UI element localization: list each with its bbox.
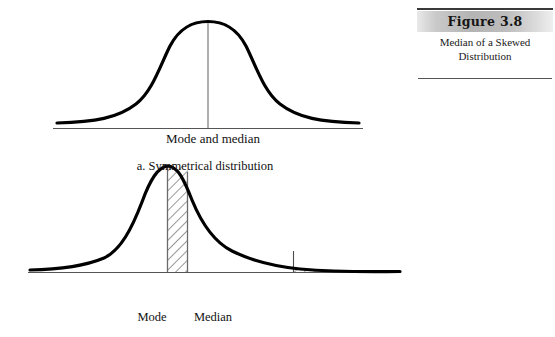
figure-caption-text: Median of a Skewed Distribution [417,36,553,63]
figure-rule-bottom [418,78,552,79]
symmetrical-distribution-plot [0,0,400,150]
figure-caption-line-1: Median of a Skewed [417,36,553,50]
figure-caption-box: Figure 3.8 Median of a Skewed Distributi… [417,6,553,82]
panel-b-upper-tail-region [293,230,401,272]
panel-a-center-label: Mode and median [108,131,318,147]
figure-number-banner: Figure 3.8 [417,11,553,32]
panel-b-median-label: Median [183,310,243,325]
figure-caption-line-2: Distribution [417,50,553,64]
figure-number-label: Figure 3.8 [447,14,522,29]
panel-b-curve [30,166,400,272]
panel-a-subcaption: a. Symmetrical distribution [90,159,320,174]
figure-page: Figure 3.8 Median of a Skewed Distributi… [0,0,555,337]
panel-b-mode-label: Mode [128,310,176,325]
panel-symmetrical-distribution: Mode and median [0,0,400,150]
figure-rule-top [417,8,553,10]
